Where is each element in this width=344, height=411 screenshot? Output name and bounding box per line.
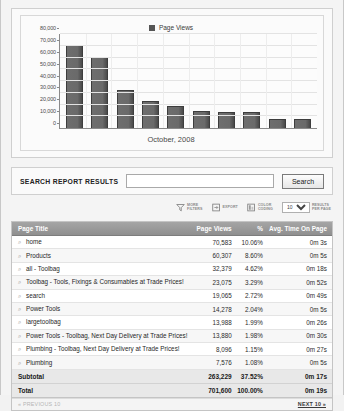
next-page-link[interactable]: NEXT 10 »	[298, 401, 326, 407]
cell-avg-time: 0m 52s	[268, 276, 332, 289]
table-row[interactable]: ⌕Plumbing7,5761.08%0m 5s	[12, 356, 332, 369]
y-axis-tick: 70,000	[40, 37, 56, 43]
cell-percent: 2.04%	[237, 302, 268, 315]
results-per-page-select[interactable]: 102550100	[282, 202, 310, 213]
cell-percent: 1.08%	[237, 356, 268, 369]
y-axis-tick: 80,000	[40, 25, 56, 31]
report-toolbar: MORE FILTERS EXPORT COLOR CODING 1025501…	[11, 198, 333, 216]
chart-vertical-gridline	[214, 34, 215, 128]
column-header-avg-time[interactable]: Avg. Time On Page	[268, 222, 332, 236]
magnifier-icon[interactable]: ⌕	[18, 346, 24, 353]
table-row[interactable]: ⌕all - Toolbag32,3794.62%0m 18s	[12, 262, 332, 275]
subtotal-avg-time: 0m 17s	[268, 369, 332, 383]
total-percent: 100.00%	[237, 383, 268, 397]
y-axis-tick: 20,000	[40, 96, 56, 102]
cell-page-title-text: Plumbing - Toolbag, Next Day Delivery at…	[26, 345, 180, 352]
subtotal-views: 263,229	[196, 369, 237, 383]
column-header-page-views[interactable]: Page Views	[196, 222, 237, 236]
cell-page-title[interactable]: ⌕home	[12, 236, 196, 249]
cell-page-title[interactable]: ⌕Products	[12, 249, 196, 262]
cell-page-title[interactable]: ⌕largetoolbag	[12, 316, 196, 329]
chart-vertical-gridline	[266, 34, 267, 128]
table-row[interactable]: ⌕home70,58310.06%0m 3s	[12, 236, 332, 249]
more-filters-label: MORE FILTERS	[187, 203, 202, 212]
magnifier-icon[interactable]: ⌕	[18, 333, 24, 340]
results-per-page-label: RESULTS PER PAGE	[312, 203, 331, 212]
chart-bar[interactable]	[117, 90, 134, 128]
magnifier-icon[interactable]: ⌕	[18, 266, 24, 273]
magnifier-icon[interactable]: ⌕	[18, 279, 24, 286]
report-table-panel: Page Title Page Views % Avg. Time On Pag…	[11, 221, 333, 411]
report-table: Page Title Page Views % Avg. Time On Pag…	[12, 222, 332, 398]
chart-panel: Page Views 010,00020,00030,00040,00050,0…	[11, 8, 333, 158]
subtotal-percent: 37.52%	[237, 369, 268, 383]
y-axis-tick: 60,000	[40, 49, 56, 55]
cell-avg-time: 0m 5s	[268, 249, 332, 262]
cell-page-views: 8,096	[196, 343, 237, 356]
total-avg-time: 0m 19s	[268, 383, 332, 397]
chart-bar[interactable]	[193, 111, 210, 128]
magnifier-icon[interactable]: ⌕	[18, 319, 24, 326]
legend-label-page-views: Page Views	[159, 24, 193, 31]
table-body: ⌕home70,58310.06%0m 3s⌕Products60,3078.6…	[12, 236, 332, 398]
color-coding-button[interactable]: COLOR CODING	[247, 203, 273, 212]
table-row[interactable]: ⌕largetoolbag13,9881.99%0m 26s	[12, 316, 332, 329]
cell-page-title-text: Plumbing	[26, 359, 52, 366]
more-filters-button[interactable]: MORE FILTERS	[176, 203, 202, 212]
table-head: Page Title Page Views % Avg. Time On Pag…	[12, 222, 332, 236]
table-row[interactable]: ⌕Plumbing - Toolbag, Next Day Delivery a…	[12, 343, 332, 356]
chart-bar[interactable]	[243, 112, 260, 128]
cell-percent: 1.15%	[237, 343, 268, 356]
chart-bar[interactable]	[218, 112, 235, 128]
chart-bar[interactable]	[294, 119, 311, 128]
color-coding-label: COLOR CODING	[258, 203, 273, 212]
y-axis-tick: 0	[53, 120, 56, 126]
column-header-page-title[interactable]: Page Title	[12, 222, 196, 236]
cell-page-views: 19,065	[196, 289, 237, 302]
cell-percent: 1.98%	[237, 329, 268, 342]
cell-page-title-text: Toolbag - Tools, Fixings & Consumables a…	[26, 278, 184, 285]
cell-page-views: 70,583	[196, 236, 237, 249]
magnifier-icon[interactable]: ⌕	[18, 360, 24, 367]
table-row[interactable]: ⌕Products60,3078.60%0m 5s	[12, 249, 332, 262]
funnel-icon	[176, 203, 185, 212]
cell-page-title[interactable]: ⌕all - Toolbag	[12, 262, 196, 275]
column-header-percent[interactable]: %	[237, 222, 268, 236]
cell-page-title[interactable]: ⌕Power Tools - Toolbag, Next Day Deliver…	[12, 329, 196, 342]
y-axis-tick: 50,000	[40, 61, 56, 67]
chart-container: Page Views 010,00020,00030,00040,00050,0…	[20, 15, 324, 151]
export-button[interactable]: EXPORT	[212, 203, 238, 212]
cell-page-title[interactable]: ⌕Toolbag - Tools, Fixings & Consumables …	[12, 276, 196, 289]
chart-bar[interactable]	[269, 119, 286, 129]
chart-bar[interactable]	[167, 106, 184, 128]
cell-page-title[interactable]: ⌕Power Tools	[12, 302, 196, 315]
table-row[interactable]: ⌕Power Tools14,2782.04%0m 5s	[12, 302, 332, 315]
table-row[interactable]: ⌕Toolbag - Tools, Fixings & Consumables …	[12, 276, 332, 289]
subtotal-row: Subtotal263,22937.52%0m 17s	[12, 369, 332, 383]
magnifier-icon[interactable]: ⌕	[18, 293, 24, 300]
chart-vertical-gridline	[137, 34, 138, 128]
cell-page-title[interactable]: ⌕search	[12, 289, 196, 302]
cell-page-views: 32,379	[196, 262, 237, 275]
table-row[interactable]: ⌕Power Tools - Toolbag, Next Day Deliver…	[12, 329, 332, 342]
magnifier-icon[interactable]: ⌕	[18, 253, 24, 260]
chart-vertical-gridline	[163, 34, 164, 128]
magnifier-icon[interactable]: ⌕	[18, 306, 24, 313]
cell-page-title[interactable]: ⌕Plumbing	[12, 356, 196, 369]
results-per-page-control[interactable]: 102550100 RESULTS PER PAGE	[282, 202, 331, 213]
table-row[interactable]: ⌕search19,0652.72%0m 49s	[12, 289, 332, 302]
search-button[interactable]: Search	[282, 174, 324, 189]
magnifier-icon[interactable]: ⌕	[18, 239, 24, 246]
cell-percent: 3.29%	[237, 276, 268, 289]
previous-page-link: « PREVIOUS 10	[18, 401, 60, 407]
cell-avg-time: 0m 3s	[268, 236, 332, 249]
cell-page-title-text: Products	[26, 252, 51, 259]
search-report-results-label: SEARCH REPORT RESULTS	[20, 178, 118, 185]
total-row: Total701,600100.00%0m 19s	[12, 383, 332, 397]
total-label: Total	[12, 383, 196, 397]
search-input[interactable]	[126, 174, 274, 188]
cell-page-title-text: Power Tools	[26, 305, 60, 312]
chart-vertical-gridline	[111, 34, 112, 128]
cell-page-title[interactable]: ⌕Plumbing - Toolbag, Next Day Delivery a…	[12, 343, 196, 356]
y-axis-tick: 30,000	[40, 84, 56, 90]
